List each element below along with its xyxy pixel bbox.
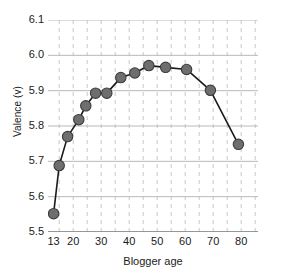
x-tick-label: 70	[200, 236, 226, 247]
y-tick-label: 5.9	[14, 85, 44, 96]
chart-figure: Valence (v) 5.55.65.75.85.96.06.1 132030…	[0, 0, 306, 278]
data-markers	[48, 60, 243, 218]
y-tick-label: 5.5	[14, 226, 44, 237]
x-tick-label: 40	[116, 236, 142, 247]
chart-svg	[48, 20, 258, 232]
y-axis-title: Valence (v)	[12, 64, 23, 160]
x-tick-label: 30	[88, 236, 114, 247]
y-tick-label: 5.6	[14, 191, 44, 202]
plot-area	[48, 20, 258, 232]
x-tick-label: 80	[228, 236, 254, 247]
y-tick-label: 6.1	[14, 14, 44, 25]
y-tick-label: 5.8	[14, 120, 44, 131]
x-axis-title: Blogger age	[0, 255, 306, 267]
x-tick-label: 20	[60, 236, 86, 247]
horizontal-gridlines	[48, 20, 258, 232]
y-tick-label: 6.0	[14, 49, 44, 60]
x-tick-label: 50	[144, 236, 170, 247]
y-tick-label: 5.7	[14, 155, 44, 166]
x-tick-label: 60	[172, 236, 198, 247]
